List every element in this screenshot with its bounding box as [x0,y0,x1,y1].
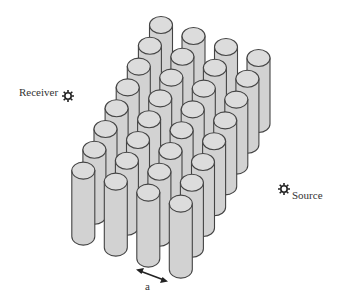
periodic-cylinder-array-diagram: Receiver Source a [0,0,339,300]
diagram-canvas [0,0,339,300]
cylinder-lattice [72,17,270,279]
cylinder [104,173,127,256]
cylinder [137,184,160,267]
cylinder [169,195,192,278]
receiver-label: Receiver [19,86,58,98]
lattice-constant-label: a [145,280,150,292]
cylinder [72,162,95,245]
source-label: Source [292,189,323,201]
lattice-constant-arrow [136,268,168,283]
source-icon [278,183,290,195]
receiver-icon [62,90,74,102]
